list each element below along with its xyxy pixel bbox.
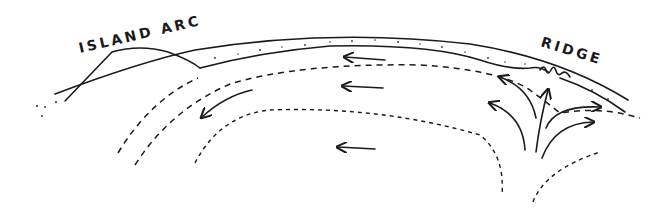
convection-diagram: ISLAND ARC RIDGE bbox=[0, 0, 649, 210]
flow-boundaries bbox=[118, 65, 640, 202]
upwelling-center-arrow bbox=[536, 90, 548, 152]
spread-right-lower-arrow bbox=[542, 122, 593, 158]
middle-left-flow-arrow bbox=[343, 86, 383, 88]
spread-left-lower-arrow bbox=[490, 103, 525, 150]
subducting-slab bbox=[36, 48, 200, 117]
lower-left-flow-arrow bbox=[338, 147, 375, 149]
ridge-upwelling bbox=[490, 77, 600, 158]
upper-left-flow-arrow bbox=[345, 57, 385, 60]
island-arc-label: ISLAND ARC bbox=[77, 12, 203, 56]
